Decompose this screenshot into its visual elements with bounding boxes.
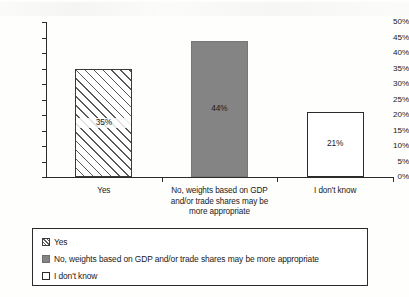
bar[interactable]: 35% (75, 69, 132, 178)
y-axis-tick-mark (42, 131, 46, 132)
legend-item[interactable]: Yes (42, 234, 367, 250)
x-axis-category-label-line: Yes (38, 186, 170, 197)
bar-value-label: 44% (192, 104, 247, 113)
legend-swatch-hatched-icon (42, 238, 50, 246)
y-axis-tick-label: 35% (363, 65, 409, 73)
y-axis-tick-label: 30% (363, 80, 409, 88)
legend-swatch-solid-gray-icon (42, 255, 50, 263)
chart-legend: Yes No, weights based on GDP and/or trad… (32, 228, 368, 286)
y-axis-tick-label: 10% (363, 142, 409, 150)
x-axis-category-label-line: I don't know (269, 186, 401, 197)
y-axis-tick-label: 45% (363, 34, 409, 42)
y-axis-tick-mark (42, 22, 46, 23)
y-axis-tick-mark (42, 162, 46, 163)
bar[interactable]: 21% (307, 112, 364, 177)
y-axis-tick-label: 40% (363, 49, 409, 57)
x-axis-tick-mark (162, 177, 163, 182)
x-axis-category-label-line: No, weights based on GDP (154, 186, 286, 197)
y-axis-tick-mark (42, 115, 46, 116)
legend-item[interactable]: No, weights based on GDP and/or trade sh… (42, 251, 367, 267)
x-axis-category-label: Yes (38, 186, 170, 197)
y-axis-tick-mark (42, 146, 46, 147)
y-axis-tick-mark (42, 84, 46, 85)
x-axis-tick-mark (277, 177, 278, 182)
x-axis-tick-mark (393, 177, 394, 182)
y-axis-line (46, 22, 47, 178)
y-axis-tick-mark (42, 53, 46, 54)
y-axis-tick-label: 50% (363, 18, 409, 26)
bar-value-label: 35% (76, 118, 131, 128)
x-axis-category-label: I don't know (269, 186, 401, 197)
y-axis-tick-label: 25% (363, 96, 409, 104)
bar-value-label: 21% (308, 139, 363, 148)
legend-item-label: I don't know (54, 271, 97, 281)
x-axis-category-label: No, weights based on GDPand/or trade sha… (154, 186, 286, 218)
bar[interactable]: 44% (191, 41, 248, 177)
x-axis-category-label-line: more appropriate (154, 207, 286, 218)
legend-swatch-white-outline-icon (42, 272, 50, 280)
y-axis-tick-mark (42, 69, 46, 70)
y-axis-tick-label: 5% (363, 158, 409, 166)
y-axis-tick-mark (42, 38, 46, 39)
x-axis-category-label-line: and/or trade shares may be (154, 197, 286, 208)
x-axis-line (46, 177, 393, 178)
legend-item-label: Yes (54, 237, 67, 247)
legend-item-label: No, weights based on GDP and/or trade sh… (54, 254, 319, 264)
y-axis-tick-label: 15% (363, 127, 409, 135)
scan-noise-artifact (0, 2, 409, 16)
legend-item[interactable]: I don't know (42, 268, 367, 284)
y-axis-tick-label: 20% (363, 111, 409, 119)
bar-chart: 50%45%40%35%30%25%20%15%10%5%0% 35%44%21… (0, 0, 409, 297)
y-axis-tick-mark (42, 100, 46, 101)
